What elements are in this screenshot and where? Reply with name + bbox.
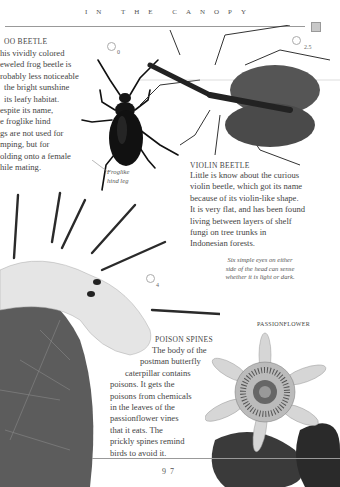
- violin-beetle-scale: 2.5: [304, 44, 312, 50]
- scale-magnifier-icon: [107, 42, 116, 51]
- caption-line: hind leg: [107, 177, 129, 186]
- scale-magnifier-icon: [146, 274, 155, 283]
- frog-beetle-heading: OO BEETLE: [4, 37, 47, 46]
- footer-rule: [92, 458, 340, 459]
- caption-line: whether it is light or dark.: [205, 273, 315, 282]
- section-title: IN THE CANOPY: [0, 8, 340, 16]
- caption-line: side of the head can sense: [205, 265, 315, 274]
- caption-line: Six simple eyes on either: [205, 256, 315, 265]
- scale-magnifier-icon: [292, 36, 301, 45]
- violin-beetle-heading: VIOLIN BEETLE: [190, 161, 250, 170]
- frog-beetle-caption: Froglike hind leg: [107, 168, 129, 185]
- eyes-caption: Six simple eyes on either side of the he…: [205, 256, 315, 282]
- text-line: Little is know about the curious: [190, 170, 340, 181]
- frog-beetle-scale: 0: [117, 49, 120, 55]
- passionflower-image: [205, 330, 340, 487]
- page-number: 97: [0, 467, 340, 476]
- caterpillar-scale: 4: [156, 282, 159, 288]
- passionflower-label: PASSIONFLOWER: [257, 321, 310, 327]
- caption-line: Froglike: [107, 168, 129, 177]
